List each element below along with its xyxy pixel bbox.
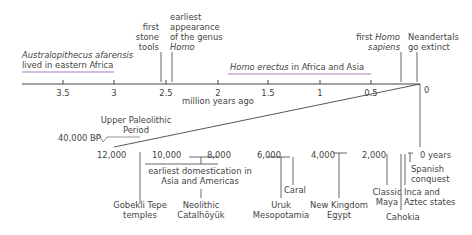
genus-homo-label: earliest appearance of the genus Homo: [170, 12, 223, 52]
domestication-label: earliest domestication in Asia and Ameri…: [140, 166, 260, 186]
australopithecus-label: Australopithecus afarensis lived in east…: [22, 50, 133, 70]
label-line: first: [143, 22, 159, 32]
tick-label: 8,000: [207, 150, 231, 160]
label-line: Maya: [376, 197, 398, 207]
label-line: Catalhöyük: [177, 210, 224, 220]
label-line: conquest: [411, 174, 449, 184]
label-line: Homo: [375, 32, 400, 42]
neandertals-extinct-label: Neandertals go extinct: [408, 32, 459, 52]
classic-maya-label: Classic Maya: [370, 187, 404, 207]
label-line: Neolithic: [183, 200, 220, 210]
label-line: Mesopotamia: [253, 210, 309, 220]
label-line: Neandertals: [408, 32, 459, 42]
label-line: first: [356, 32, 375, 42]
label-line: Inca and: [404, 187, 440, 197]
label-line: appearance: [170, 22, 220, 32]
homo-erectus-label: Homo erectus in Africa and Asia: [230, 62, 364, 72]
axis-unit-label: million years ago: [168, 96, 268, 106]
label-line: Upper Paleolithic: [101, 115, 172, 125]
label-line: of the genus: [170, 32, 223, 42]
tick-label: 0.5: [361, 88, 381, 98]
tick-label: 3.5: [53, 88, 73, 98]
tick-label: 2,000: [362, 150, 386, 160]
tick-label: 0: [424, 85, 429, 95]
label-line: Gobekli Tepe: [113, 200, 167, 210]
tick-label: 12,000: [97, 150, 126, 160]
cahokia-label: Cahokia: [386, 212, 420, 222]
tick-label: 10,000: [152, 150, 181, 160]
label-line: Homo: [170, 42, 195, 52]
catalhoyuk-label: Neolithic Catalhöyük: [171, 200, 231, 220]
label-line: earliest: [170, 12, 201, 22]
first-homo-sapiens-label: first Homo sapiens: [356, 32, 400, 52]
tick-label: 4,000: [311, 150, 335, 160]
tick-label: 1: [310, 88, 330, 98]
species-name: Australopithecus afarensis: [22, 50, 133, 60]
label-line: go extinct: [408, 42, 450, 52]
tick-label: 3: [104, 88, 124, 98]
range-description: in Africa and Asia: [289, 62, 364, 72]
label-line: Classic: [373, 187, 402, 197]
new-kingdom-egypt-label: New Kingdom Egypt: [309, 200, 369, 220]
tick-label: 0 years: [420, 150, 451, 160]
first-stone-tools-label: first stone tools: [136, 22, 159, 52]
label-line: Egypt: [327, 210, 351, 220]
label-line: Period: [123, 125, 149, 135]
inca-aztec-label: Inca and Aztec states: [404, 187, 455, 207]
label-line: stone: [136, 32, 159, 42]
label-line: Asia and Americas: [161, 176, 239, 186]
species-name: Homo erectus: [230, 62, 289, 72]
label-line: Spanish: [411, 164, 444, 174]
upper-paleolithic-label: Upper Paleolithic Period: [96, 115, 176, 135]
uruk-label: Uruk Mesopotamia: [251, 200, 311, 220]
label-line: New Kingdom: [310, 200, 368, 210]
break-label: 40,000 BP: [58, 133, 101, 143]
label-line: Uruk: [271, 200, 291, 210]
label-line: Aztec states: [404, 197, 455, 207]
label-line: tools: [139, 42, 159, 52]
label-line: earliest domestication in: [148, 166, 252, 176]
gobekli-tepe-label: Gobekli Tepe temples: [110, 200, 170, 220]
caral-label: Caral: [284, 185, 306, 195]
label-line: temples: [123, 210, 157, 220]
range-description: lived in eastern Africa: [22, 60, 113, 70]
tick-label: 6,000: [257, 150, 281, 160]
label-line: sapiens: [368, 42, 400, 52]
spanish-conquest-label: Spanish conquest: [411, 164, 449, 184]
